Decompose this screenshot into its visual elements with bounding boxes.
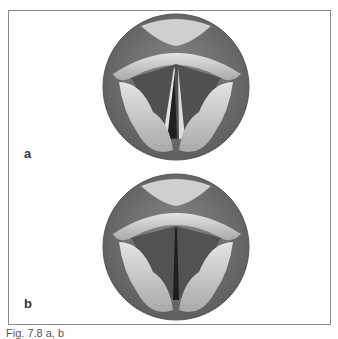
figure-caption: Fig. 7.8 a, b bbox=[6, 327, 64, 339]
panel-label-b: b bbox=[24, 296, 32, 311]
larynx-illustration-b bbox=[101, 172, 251, 322]
larynx-illustration-a bbox=[101, 12, 251, 162]
panel-label-a: a bbox=[24, 146, 31, 161]
